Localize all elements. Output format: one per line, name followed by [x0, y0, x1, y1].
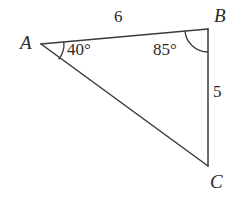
- angle-arc-b: [185, 31, 208, 52]
- triangle-figure: [0, 0, 240, 198]
- angle-measure-label-a: 40°: [67, 41, 91, 58]
- side-length-label-ab: 6: [114, 8, 123, 25]
- vertex-label-c: C: [210, 172, 223, 191]
- vertex-label-b: B: [214, 6, 226, 25]
- angle-measure-label-b: 85°: [153, 41, 177, 58]
- side-length-label-bc: 5: [213, 83, 222, 100]
- side-ac-line: [41, 44, 208, 166]
- triangle-diagram: A B C 6 5 40° 85°: [0, 0, 240, 198]
- vertex-label-a: A: [20, 33, 32, 52]
